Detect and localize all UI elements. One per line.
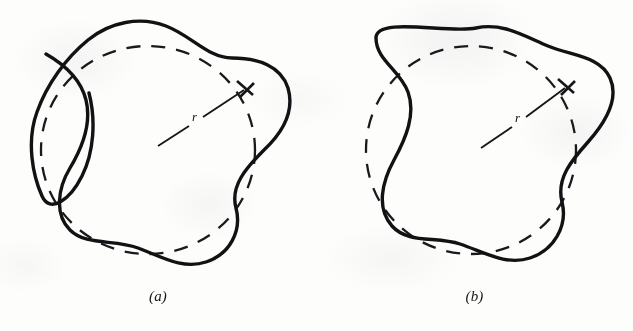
figure-root: r (a) r (b) [0, 0, 633, 331]
wavy-curve-b [376, 27, 613, 261]
radius-label-b: r [515, 110, 521, 125]
figure-panel-b: r (b) [316, 0, 633, 331]
wavy-curve-a [31, 21, 289, 264]
radius-arrow-shaft-b-upper [526, 88, 565, 117]
panel-caption-b: (b) [316, 288, 633, 305]
figure-panel-a: r (a) [0, 0, 316, 331]
panel-caption-a: (a) [0, 288, 316, 305]
radius-arrow-shaft-b-lower [481, 127, 512, 148]
radius-arrow-shaft-a-upper [203, 90, 244, 117]
radius-label-a: r [192, 109, 198, 124]
panel-a-drawing: r [0, 0, 316, 300]
panel-b-drawing: r [316, 0, 633, 300]
radius-arrow-shaft-a-lower [158, 126, 189, 146]
